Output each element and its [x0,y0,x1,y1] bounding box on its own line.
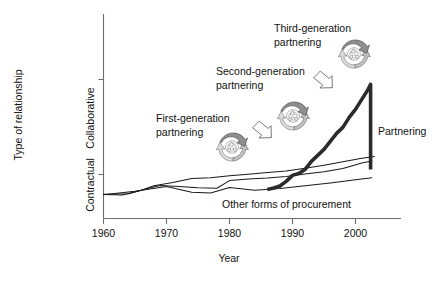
x-tick-label-1980: 1980 [218,227,242,239]
annotation-first-generation-line2: partnering [156,126,203,138]
annotation-third-generation-partnering: Third-generation partnering [274,22,351,48]
annotation-first-generation-partnering: First-generation partnering [156,112,230,138]
annotation-first-generation-line1: First-generation [156,112,230,124]
y-tick-label-contractual: Contractual [84,158,96,212]
series-line-other-upper [104,157,375,195]
series-line-partnering [267,84,370,189]
block-arrow-second-to-third [314,71,333,88]
annotation-third-generation-line1: Third-generation [274,22,351,34]
chart-figure: 1960 1970 1980 1990 2000 Collaborative C… [0,0,444,282]
cycle-icon-first-generation [216,133,248,161]
annotation-other-forms-label: Other forms of procurement [222,198,351,210]
x-tick-label-1970: 1970 [155,227,179,239]
x-tick-label-1960: 1960 [92,227,116,239]
y-tick-label-collaborative: Collaborative [84,87,96,148]
x-tick-labels: 1960 1970 1980 1990 2000 [92,227,368,239]
relationship-evolution-chart: 1960 1970 1980 1990 2000 Collaborative C… [0,0,444,282]
x-tick-label-2000: 2000 [344,227,368,239]
y-tick-labels: Collaborative Contractual [84,87,96,212]
annotation-second-generation-line1: Second-generation [216,65,305,77]
x-axis-title: Year [218,252,240,264]
series-other-forms-upper [104,157,375,195]
y-axis-title: Type of relationship [12,69,24,160]
annotation-partnering-label: Partnering [378,125,427,137]
annotation-second-generation-line2: partnering [216,79,263,91]
chart-axes [99,14,402,224]
x-tick-label-1990: 1990 [281,227,305,239]
series-partnering [267,84,370,189]
annotation-third-generation-line2: partnering [274,36,321,48]
annotation-second-generation-partnering: Second-generation partnering [216,65,305,91]
block-arrow-first-to-second [253,121,272,138]
cycle-icon-third-generation [338,40,370,68]
cycle-icon-second-generation [277,102,309,130]
